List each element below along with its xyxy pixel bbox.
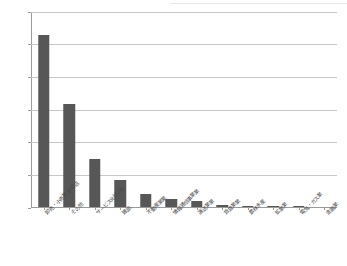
y-axis-tick (28, 12, 31, 13)
y-axis-tick (28, 175, 31, 176)
x-axis-category-label: 賃貸業業 (222, 211, 228, 217)
bar-slot (312, 12, 338, 207)
bar-series (31, 12, 337, 207)
x-axis-labels: 卸売・小売業,飲食店その他サービス化比2業建設不動産業業情報通信事業業運送業業賃… (31, 209, 337, 266)
bar-slot (31, 12, 57, 207)
x-axis-category-label: 卸売・小売業,飲食店 (43, 211, 49, 217)
y-axis-tick (28, 77, 31, 78)
bar-slot (210, 12, 236, 207)
bar-slot (261, 12, 287, 207)
bar[interactable] (89, 159, 100, 207)
x-axis-category-label: 運送業業 (196, 211, 202, 217)
bar-slot (286, 12, 312, 207)
x-axis-category-label: 電気・ガス業 (298, 211, 304, 217)
bar-slot (235, 12, 261, 207)
x-axis-category-label: 農林水産 (247, 211, 253, 217)
plot-area (31, 12, 337, 208)
bar[interactable] (140, 194, 151, 207)
bar-chart: 0.0%0.5%1.0%1.5%2.0%2.5%3.0% 卸売・小売業,飲食店そ… (0, 0, 347, 266)
scan-artifact-line (170, 3, 347, 4)
x-axis-category-label: 金融業 (324, 211, 330, 217)
bar-slot (108, 12, 134, 207)
y-axis-tick (28, 142, 31, 143)
bar-slot (82, 12, 108, 207)
x-axis-category-label: 不動産業業 (145, 211, 151, 217)
y-axis-tick (28, 44, 31, 45)
bar-slot (133, 12, 159, 207)
x-axis-category-label: 情報通信事業業 (171, 211, 177, 217)
x-axis-category-label: その他 (69, 211, 75, 217)
y-axis-tick (28, 110, 31, 111)
x-axis-category-label: 鉱業業 (273, 211, 279, 217)
bar[interactable] (38, 35, 49, 207)
x-axis-category-label: 建設 (120, 211, 126, 217)
bar-slot (184, 12, 210, 207)
bar-slot (57, 12, 83, 207)
x-axis-category-label: サービス化比2業 (94, 211, 100, 217)
bar[interactable] (166, 199, 177, 207)
bar-slot (159, 12, 185, 207)
